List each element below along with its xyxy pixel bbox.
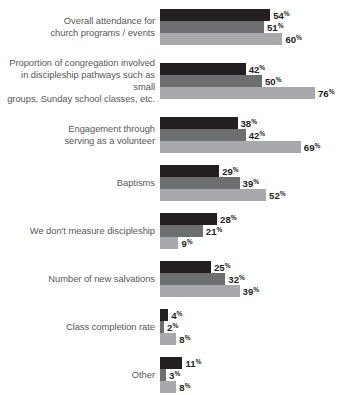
- bar-row: 21%: [160, 225, 363, 237]
- bar-series-1: [160, 63, 246, 75]
- percent-sign: %: [172, 322, 178, 329]
- bar-track: 28%21%9%: [160, 213, 363, 249]
- bar-value-label: 42%: [249, 62, 266, 76]
- bar-series-3: [160, 189, 266, 201]
- percent-sign: %: [216, 226, 222, 233]
- category-label-line: Proportion of congregation involved: [9, 57, 155, 68]
- category-label-line: in discipleship pathways such as small: [21, 69, 155, 92]
- category-label-line: Engagement through: [68, 123, 155, 134]
- category-label-line: groups, Sunday school classes, etc.: [7, 93, 155, 104]
- bar-value-number: 51: [267, 22, 278, 33]
- bar-value-number: 52: [269, 190, 280, 201]
- bar-row: 60%: [160, 33, 363, 45]
- category-label: We don't measure discipleship: [0, 225, 160, 237]
- bar-group: Engagement throughserving as a volunteer…: [0, 117, 363, 153]
- bar-value-number: 11: [185, 358, 195, 369]
- category-label-line: We don't measure discipleship: [30, 225, 155, 236]
- bar-value-label: 50%: [265, 74, 282, 88]
- bar-value-label: 2%: [167, 320, 178, 334]
- bar-series-2: [160, 75, 262, 87]
- bar-track: 25%32%39%: [160, 261, 363, 297]
- bar-group: Proportion of congregation involvedin di…: [0, 57, 363, 105]
- percent-sign: %: [231, 214, 237, 221]
- bar-value-number: 39: [243, 286, 254, 297]
- bar-row: 51%: [160, 21, 363, 33]
- bar-value-label: 60%: [285, 32, 302, 46]
- bar-row: 69%: [160, 141, 363, 153]
- bar-row: 9%: [160, 237, 363, 249]
- bar-group: We don't measure discipleship28%21%9%: [0, 213, 363, 249]
- category-label: Class completion rate: [0, 321, 160, 333]
- bar-series-2: [160, 177, 240, 189]
- bar-value-label: 8%: [179, 332, 190, 346]
- bar-series-2: [160, 369, 166, 381]
- category-label: Proportion of congregation involvedin di…: [0, 57, 160, 105]
- bar-value-number: 28: [220, 214, 231, 225]
- bar-row: 39%: [160, 285, 363, 297]
- bar-series-1: [160, 309, 168, 321]
- percent-sign: %: [174, 370, 180, 377]
- bar-series-1: [160, 213, 217, 225]
- percent-sign: %: [259, 130, 265, 137]
- bar-series-3: [160, 381, 176, 393]
- bar-value-label: 39%: [243, 176, 260, 190]
- bar-value-number: 25: [214, 262, 225, 273]
- bar-series-3: [160, 87, 315, 99]
- percent-sign: %: [259, 64, 265, 71]
- bar-series-2: [160, 225, 203, 237]
- bar-series-1: [160, 9, 270, 21]
- bar-value-label: 11%: [185, 356, 201, 370]
- bar-series-3: [160, 285, 240, 297]
- bar-row: 4%: [160, 309, 363, 321]
- percent-sign: %: [278, 22, 284, 29]
- bar-group: Class completion rate4%2%8%: [0, 309, 363, 345]
- bar-value-number: 32: [228, 274, 239, 285]
- bar-value-label: 69%: [304, 140, 321, 154]
- bar-row: 11%: [160, 357, 363, 369]
- category-label-line: Baptisms: [117, 177, 155, 188]
- bar-value-number: 29: [222, 166, 233, 177]
- bar-row: 76%: [160, 87, 363, 99]
- bar-value-label: 9%: [181, 236, 192, 250]
- bar-value-number: 54: [273, 10, 284, 21]
- bar-row: 50%: [160, 75, 363, 87]
- category-label: Other: [0, 369, 160, 381]
- bar-series-1: [160, 117, 238, 129]
- bar-row: 39%: [160, 177, 363, 189]
- bar-row: 25%: [160, 261, 363, 273]
- bar-series-3: [160, 237, 178, 249]
- bar-series-2: [160, 21, 264, 33]
- percent-sign: %: [280, 190, 286, 197]
- bar-series-2: [160, 273, 225, 285]
- bar-track: 42%50%76%: [160, 63, 363, 99]
- bar-row: 8%: [160, 333, 363, 345]
- percent-sign: %: [296, 34, 302, 41]
- category-label: Overall attendance forchurch programs / …: [0, 15, 160, 39]
- bar-row: 28%: [160, 213, 363, 225]
- bar-value-number: 60: [285, 34, 296, 45]
- bar-row: 2%: [160, 321, 363, 333]
- percent-sign: %: [314, 142, 320, 149]
- bar-value-label: 29%: [222, 164, 239, 178]
- bar-row: 8%: [160, 381, 363, 393]
- percent-sign: %: [251, 118, 257, 125]
- bar-row: 38%: [160, 117, 363, 129]
- bar-series-2: [160, 129, 246, 141]
- bar-value-number: 76: [318, 88, 329, 99]
- category-label-line: serving as a volunteer: [64, 135, 155, 146]
- bar-row: 52%: [160, 189, 363, 201]
- bar-series-2: [160, 321, 164, 333]
- bar-row: 42%: [160, 129, 363, 141]
- bar-track: 38%42%69%: [160, 117, 363, 153]
- bar-value-label: 39%: [243, 284, 260, 298]
- bar-value-number: 50: [265, 76, 276, 87]
- percent-sign: %: [196, 358, 202, 365]
- bar-value-label: 51%: [267, 20, 284, 34]
- bar-track: 4%2%8%: [160, 309, 363, 345]
- bar-group: Other11%3%8%: [0, 357, 363, 393]
- bar-series-3: [160, 333, 176, 345]
- bar-track: 54%51%60%: [160, 9, 363, 45]
- bar-value-label: 76%: [318, 86, 335, 100]
- bar-value-label: 52%: [269, 188, 286, 202]
- category-label: Baptisms: [0, 177, 160, 189]
